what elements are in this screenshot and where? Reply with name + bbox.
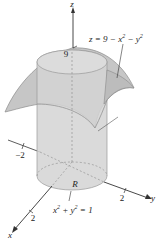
region-label: R xyxy=(71,179,78,189)
x-axis-label: x xyxy=(7,230,12,238)
y-axis-label: y xyxy=(150,193,155,203)
y-axis-line xyxy=(104,182,148,198)
neg-y-tick-label: −2 xyxy=(15,150,25,160)
y-tick xyxy=(124,188,126,193)
cylinder-label-pointer xyxy=(69,191,71,201)
paraboloid-wing-right xyxy=(104,70,134,104)
z-axis-label: z xyxy=(69,0,74,9)
x-axis-line xyxy=(14,186,52,230)
y-tick-label: 2 xyxy=(120,193,125,203)
solid-region-diagram: z 9 z = 9 − x2 − y2 −2 R 2 y 2 x x2 + y2… xyxy=(0,0,159,238)
z-intercept-label: 9 xyxy=(64,49,69,59)
x-tick-label: 2 xyxy=(31,213,36,223)
surface-equation: z = 9 − x2 − y2 xyxy=(88,33,143,44)
cylinder-equation: x2 + y2 = 1 xyxy=(52,204,93,215)
